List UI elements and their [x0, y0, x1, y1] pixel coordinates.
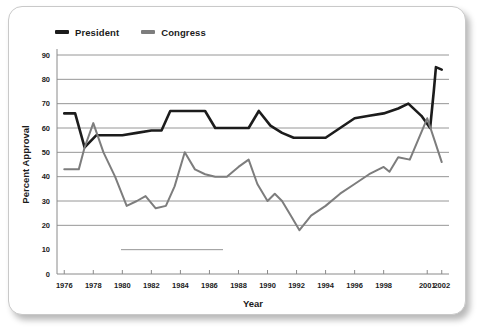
- y-tick-label-0: 0: [46, 270, 50, 279]
- x-tick-label-1986: 1986: [201, 281, 218, 290]
- y-tick-label-80: 80: [42, 75, 50, 84]
- x-tick-label-1988: 1988: [230, 281, 247, 290]
- x-axis: 1976197819801982198419861988199019921994…: [56, 270, 450, 290]
- x-axis-title: Year: [243, 298, 263, 309]
- line-chart: 0102030405060708090 19761978198019821984…: [9, 7, 467, 316]
- y-tick-label-10: 10: [42, 245, 50, 254]
- x-tick-label-1980: 1980: [114, 281, 131, 290]
- x-tick-label-1982: 1982: [143, 281, 160, 290]
- gridlines: [57, 55, 449, 250]
- x-tick-label-1996: 1996: [346, 281, 363, 290]
- x-tick-label-1992: 1992: [288, 281, 305, 290]
- x-tick-label-1984: 1984: [172, 281, 190, 290]
- data-series: [64, 67, 441, 230]
- y-tick-label-40: 40: [42, 172, 50, 181]
- y-tick-label-20: 20: [42, 221, 50, 230]
- y-tick-label-90: 90: [42, 51, 50, 60]
- y-axis: 0102030405060708090: [42, 49, 57, 279]
- x-tick-label-1976: 1976: [56, 281, 73, 290]
- y-tick-label-30: 30: [42, 197, 50, 206]
- y-tick-label-50: 50: [42, 148, 50, 157]
- x-tick-label-1990: 1990: [259, 281, 276, 290]
- chart-card: President Congress 0102030405060708090 1…: [8, 6, 466, 315]
- plot-area: 0102030405060708090 19761978198019821984…: [9, 7, 467, 316]
- x-tick-label-1978: 1978: [85, 281, 102, 290]
- y-axis-title: Percent Approval: [20, 125, 31, 203]
- x-tick-label-1998: 1998: [375, 281, 392, 290]
- y-tick-label-70: 70: [42, 99, 50, 108]
- x-tick-label-2002: 2002: [433, 281, 450, 290]
- y-tick-label-60: 60: [42, 124, 50, 133]
- x-tick-label-1994: 1994: [317, 281, 335, 290]
